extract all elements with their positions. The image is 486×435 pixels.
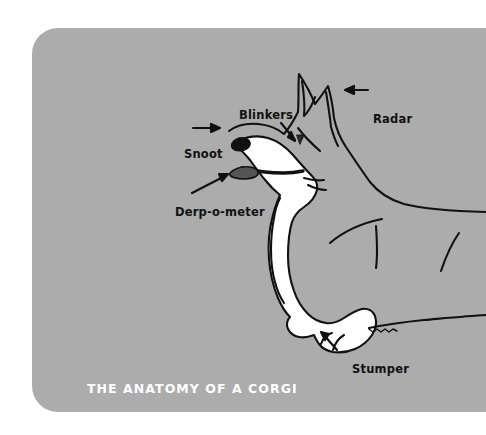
poster-card: Blinkers Radar Snoot Derp-o-meter Stumpe… [32,28,486,412]
corgi-haunch-line [441,233,459,271]
label-stumper: Stumper [352,362,409,376]
arrow-derp-o-meter [192,174,228,193]
corgi-illustration [32,28,486,412]
corgi-nose [231,138,250,151]
label-snoot: Snoot [184,147,223,161]
label-radar: Radar [373,112,412,126]
arrow-radar [345,86,368,94]
label-derp-o-meter: Derp-o-meter [175,205,265,219]
corgi-belly-line [369,315,486,328]
corgi-flank-line [376,226,377,268]
arrow-snoot [193,124,220,132]
corgi-white-underside [236,136,376,352]
corgi-eye [297,135,304,144]
corgi-shoulder-line [330,219,382,243]
poster-title: THE ANATOMY OF A CORGI [87,381,298,396]
label-blinkers: Blinkers [239,108,293,122]
corgi-tongue [230,167,258,179]
